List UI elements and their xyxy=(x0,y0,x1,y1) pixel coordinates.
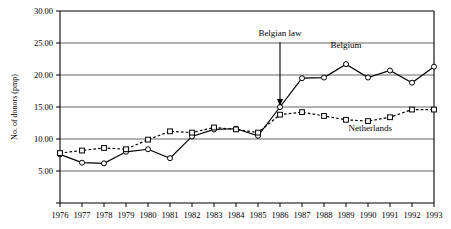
x-tick-label-1993: 1993 xyxy=(426,210,443,220)
x-tick-label-1979: 1979 xyxy=(118,210,135,220)
data-point-netherlands-1983 xyxy=(212,125,217,130)
y-axis-title: No. of donors (pmp) xyxy=(10,74,19,140)
x-tick-label-1983: 1983 xyxy=(206,210,223,220)
series-label-belgium: Belgium xyxy=(331,40,362,50)
series-group xyxy=(58,62,437,166)
data-point-belgium-1981 xyxy=(168,156,173,161)
data-point-belgium-1992 xyxy=(410,80,415,85)
x-tick-label-1986: 1986 xyxy=(272,210,289,220)
series-inline-labels: BelgiumNetherlands xyxy=(331,40,393,133)
y-tick-label-15: 15.00 xyxy=(34,102,53,112)
data-point-netherlands-1988 xyxy=(322,114,327,119)
data-point-belgium-1978 xyxy=(102,161,107,166)
y-tick-label-25: 25.00 xyxy=(34,38,53,48)
x-tick-label-1978: 1978 xyxy=(96,210,113,220)
y-tick-label-10: 10.00 xyxy=(34,134,53,144)
data-point-belgium-1980 xyxy=(146,147,151,152)
x-axis-ticks: 1976197719781979198019811982198319841985… xyxy=(52,203,443,220)
data-point-belgium-1991 xyxy=(388,68,393,73)
chart-figure: 30.0025.0020.0015.0010.005.00 1976197719… xyxy=(0,0,451,229)
data-point-netherlands-1993 xyxy=(432,107,437,112)
data-point-belgium-1988 xyxy=(322,75,327,80)
data-point-netherlands-1984 xyxy=(234,127,239,132)
x-tick-label-1980: 1980 xyxy=(140,210,157,220)
data-point-netherlands-1987 xyxy=(300,110,305,115)
y-tick-label-20: 20.00 xyxy=(34,70,53,80)
data-point-netherlands-1982 xyxy=(190,130,195,135)
x-tick-label-1985: 1985 xyxy=(250,210,267,220)
data-point-netherlands-1977 xyxy=(80,148,85,153)
y-tick-label-5: 5.00 xyxy=(38,166,53,176)
data-point-netherlands-1992 xyxy=(410,107,415,112)
data-point-netherlands-1985 xyxy=(256,130,261,135)
data-point-netherlands-1978 xyxy=(102,146,107,151)
y-tick-label-30: 30.00 xyxy=(34,6,53,16)
data-point-belgium-1990 xyxy=(366,75,371,80)
data-point-netherlands-1986 xyxy=(278,112,283,117)
data-point-belgium-1989 xyxy=(344,62,349,67)
x-tick-label-1989: 1989 xyxy=(338,210,355,220)
x-tick-label-1981: 1981 xyxy=(162,210,179,220)
data-point-belgium-1993 xyxy=(432,64,437,69)
x-tick-label-1976: 1976 xyxy=(52,210,69,220)
x-tick-label-1984: 1984 xyxy=(228,210,246,220)
data-point-netherlands-1976 xyxy=(58,151,63,156)
gridlines xyxy=(60,43,434,171)
y-axis-ticks: 30.0025.0020.0015.0010.005.00 xyxy=(34,6,60,203)
data-point-netherlands-1979 xyxy=(124,147,129,152)
x-tick-label-1987: 1987 xyxy=(294,210,311,220)
data-point-belgium-1977 xyxy=(80,160,85,165)
x-tick-label-1990: 1990 xyxy=(360,210,377,220)
x-tick-label-1982: 1982 xyxy=(184,210,201,220)
x-tick-label-1988: 1988 xyxy=(316,210,333,220)
series-line-belgium xyxy=(60,64,434,163)
data-point-netherlands-1981 xyxy=(168,129,173,134)
donors-line-chart: 30.0025.0020.0015.0010.005.00 1976197719… xyxy=(0,0,451,229)
annotation-belgian-law: Belgian law xyxy=(258,28,302,106)
x-tick-label-1977: 1977 xyxy=(74,210,91,220)
data-point-netherlands-1989 xyxy=(344,117,349,122)
data-point-netherlands-1991 xyxy=(388,115,393,120)
data-point-belgium-1987 xyxy=(300,76,305,81)
x-tick-label-1992: 1992 xyxy=(404,210,421,220)
x-tick-label-1991: 1991 xyxy=(382,210,399,220)
series-label-netherlands: Netherlands xyxy=(348,123,392,133)
annotation-text-belgian-law: Belgian law xyxy=(258,28,302,38)
data-point-netherlands-1980 xyxy=(146,137,151,142)
